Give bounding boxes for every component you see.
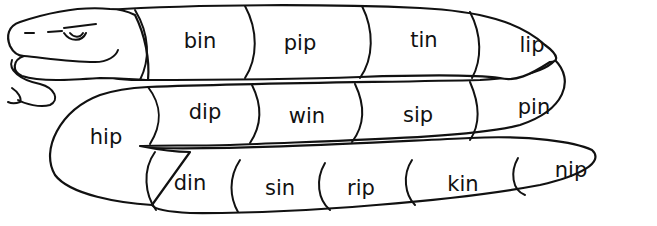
word-sip: sip — [403, 103, 433, 127]
snake-figure: bin pip tin lip dip win sip pin hip din … — [0, 0, 657, 226]
word-din: din — [174, 171, 206, 195]
brow-line — [48, 31, 62, 32]
word-dip: dip — [189, 100, 222, 124]
word-rip: rip — [347, 176, 375, 200]
word-pin: pin — [518, 95, 550, 119]
snake-head-icon — [8, 8, 148, 80]
word-bin: bin — [184, 29, 216, 53]
word-nip: nip — [555, 158, 587, 182]
word-kin: kin — [447, 172, 478, 196]
word-sin: sin — [265, 176, 295, 200]
word-hip: hip — [90, 125, 122, 149]
word-pip: pip — [284, 31, 317, 55]
word-tin: tin — [410, 28, 437, 52]
word-win: win — [289, 104, 325, 128]
snake-top-band — [100, 5, 556, 80]
word-lip: lip — [520, 33, 545, 57]
